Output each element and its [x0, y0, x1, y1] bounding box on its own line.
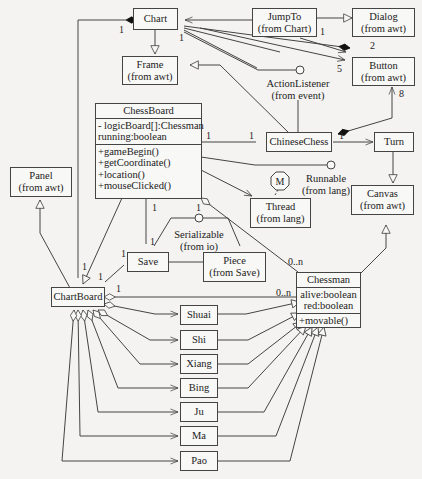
mult-cb-chessman: 1: [196, 203, 201, 213]
class-shuai[interactable]: Shuai: [180, 305, 218, 325]
mult-chessboard-chessman-dst: 0..n: [288, 257, 303, 267]
class-bing[interactable]: Bing: [180, 378, 218, 398]
class-thread[interactable]: Thread (from lang): [250, 198, 311, 228]
class-shi[interactable]: Shi: [180, 330, 218, 350]
class-chessman-name: Chessman: [297, 273, 360, 288]
class-chessboard[interactable]: ChessBoard - logicBoard[]:Chessman runni…: [95, 103, 202, 199]
interface-serializable-label: Serializable (from io): [166, 229, 232, 253]
class-turn[interactable]: Turn: [374, 132, 414, 152]
class-chessman[interactable]: Chessman alive:boolean red:boolean +mova…: [296, 272, 361, 328]
interface-actionlistener-label: ActionListener (from event): [263, 78, 333, 102]
class-jumpto-pkg: (from Chart): [253, 23, 316, 35]
class-jumpto[interactable]: JumpTo (from Chart): [252, 8, 317, 37]
class-dialog[interactable]: Dialog (from awt): [352, 8, 415, 37]
mult-chart-button: 5: [337, 64, 342, 74]
class-frame-pkg: (from awt): [123, 71, 177, 83]
mult-chartboard-chessman-src: 1: [116, 284, 121, 294]
class-canvas[interactable]: Canvas (from awt): [351, 185, 414, 215]
class-chartboard-name: ChartBoard: [52, 291, 104, 303]
class-dialog-name: Dialog: [353, 11, 414, 23]
class-chessboard-methods: +gameBegin() +getCoordinate() +location(…: [96, 145, 201, 193]
mult-chart-right: 1: [179, 33, 184, 43]
class-button-name: Button: [353, 60, 414, 72]
class-chinesechess[interactable]: ChineseChess: [266, 132, 332, 152]
interface-runnable-label: Runnable (from lang): [302, 173, 350, 197]
class-dialog-pkg: (from awt): [353, 23, 414, 35]
class-chessman-methods: +movable(): [297, 314, 360, 328]
class-frame[interactable]: Frame (from awt): [122, 56, 178, 85]
class-frame-name: Frame: [123, 59, 177, 71]
class-piece-pkg: (from Save): [204, 267, 265, 279]
mult-chart-left: 1: [119, 25, 124, 35]
class-chart[interactable]: Chart: [133, 8, 178, 30]
mult-save-cbd-top: 1: [121, 249, 126, 259]
class-pao[interactable]: Pao: [180, 451, 218, 471]
class-chessboard-attributes: - logicBoard[]:Chessman running:boolean: [96, 119, 201, 145]
class-ma[interactable]: Ma: [180, 426, 218, 446]
mult-jumpto-button-src: 1: [320, 27, 325, 37]
class-panel-name: Panel: [11, 170, 71, 182]
class-chart-name: Chart: [134, 13, 177, 25]
class-chartboard[interactable]: ChartBoard: [51, 287, 105, 307]
mult-chartboard-up: 1: [82, 262, 87, 272]
class-canvas-pkg: (from awt): [352, 200, 413, 212]
class-piece-name: Piece: [204, 255, 265, 267]
class-thread-pkg: (from lang): [251, 213, 310, 225]
class-piece[interactable]: Piece (from Save): [203, 252, 266, 282]
class-jumpto-name: JumpTo: [253, 11, 316, 23]
mult-jumpto-button-dst: 2: [370, 41, 375, 51]
class-thread-name: Thread: [251, 201, 310, 213]
mult-cb-save-bottom: 1: [150, 237, 155, 247]
class-panel-pkg: (from awt): [11, 182, 71, 194]
mult-cc-turn: 1: [339, 131, 344, 141]
class-save-name: Save: [128, 256, 168, 268]
class-save[interactable]: Save: [127, 252, 169, 272]
mult-cb-save-top: 1: [152, 203, 157, 213]
class-turn-name: Turn: [375, 136, 413, 148]
mult-chartboard-chessman-dst: 0..n: [276, 288, 291, 298]
class-chessboard-name: ChessBoard: [96, 104, 201, 119]
class-ju[interactable]: Ju: [180, 402, 218, 422]
class-button-pkg: (from awt): [353, 72, 414, 84]
mult-save-cbd-bottom: 1: [98, 272, 103, 282]
class-chessman-attributes: alive:boolean red:boolean: [297, 288, 360, 314]
mult-cb-cc-left: 1: [206, 131, 211, 141]
class-panel[interactable]: Panel (from awt): [10, 167, 72, 197]
class-button[interactable]: Button (from awt): [352, 57, 415, 86]
class-chinesechess-name: ChineseChess: [267, 136, 331, 148]
mult-cb-cc-right: 1: [249, 131, 254, 141]
mult-cc-button: 8: [399, 89, 404, 99]
class-xiang[interactable]: Xiang: [180, 354, 218, 374]
class-canvas-name: Canvas: [352, 188, 413, 200]
svg-text:M: M: [276, 176, 285, 187]
